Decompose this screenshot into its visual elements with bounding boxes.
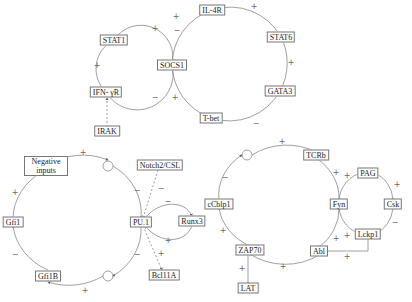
activation-sign: +: [344, 171, 351, 180]
activation-sign: +: [394, 180, 401, 189]
activation-sign: +: [94, 61, 101, 70]
node-abl: Abl: [310, 246, 328, 257]
inhibition-sign: −: [158, 184, 165, 193]
inhibition-sign: −: [392, 218, 399, 227]
inhibition-sign: −: [134, 250, 141, 259]
activation-sign: +: [344, 252, 351, 261]
activation-sign: +: [288, 58, 295, 67]
inhibition-sign: −: [152, 93, 159, 102]
activation-sign: +: [82, 286, 89, 295]
node-notch: Notch2/CSL: [137, 160, 183, 171]
node-tcrb: TCRb: [303, 150, 329, 161]
activation-sign: +: [12, 188, 19, 197]
activation-sign: +: [333, 234, 340, 243]
inhibition-sign: −: [134, 186, 141, 195]
node-lat: LAT: [238, 283, 259, 294]
node-stat1: STAT1: [100, 35, 128, 46]
activation-sign: +: [344, 231, 351, 240]
node-lckp1: Lckp1: [355, 229, 381, 240]
node-csk: Csk: [384, 199, 402, 210]
activation-sign: +: [220, 226, 227, 235]
activation-sign: +: [279, 137, 286, 146]
node-socs1: SOCS1: [157, 60, 187, 71]
node-tbet: T-bet: [200, 113, 223, 124]
node-neginputs: Negative inputs: [24, 156, 68, 176]
node-gfi1: Gfi1: [3, 217, 24, 228]
node-pu1: PU.1: [130, 217, 152, 228]
activation-sign: +: [251, 2, 258, 11]
activation-sign: +: [80, 148, 87, 157]
node-fyn: Fyn: [330, 199, 348, 210]
node-runx3: Runx3: [178, 216, 205, 227]
node-gata3: GATA3: [265, 86, 296, 97]
inhibition-sign: −: [174, 26, 181, 35]
activation-sign: +: [333, 168, 340, 177]
inhibition-sign: −: [165, 197, 172, 206]
node-ccblp1: cCblp1: [204, 199, 233, 210]
node-bcl11a: Bcl11A: [149, 270, 180, 281]
activation-sign: +: [165, 236, 172, 245]
node-pag: PAG: [357, 168, 378, 179]
activation-sign: +: [158, 249, 165, 258]
inhibition-sign: −: [12, 250, 19, 259]
activation-sign: +: [172, 93, 179, 102]
node-gfi1b: Gfi1B: [35, 271, 61, 282]
node-stat6: STAT6: [267, 32, 295, 43]
inhibition-sign: −: [222, 173, 229, 182]
activation-sign: +: [280, 262, 287, 271]
inhibition-sign: −: [253, 119, 260, 128]
node-zap70: ZAP70: [235, 245, 264, 256]
node-ifngr: IFN- γR: [90, 87, 122, 98]
node-irak: IRAK: [94, 126, 120, 137]
activation-sign: +: [152, 24, 159, 33]
activation-sign: +: [239, 264, 246, 273]
activation-sign: +: [173, 12, 180, 21]
node-il4r: IL-4R: [199, 5, 225, 16]
